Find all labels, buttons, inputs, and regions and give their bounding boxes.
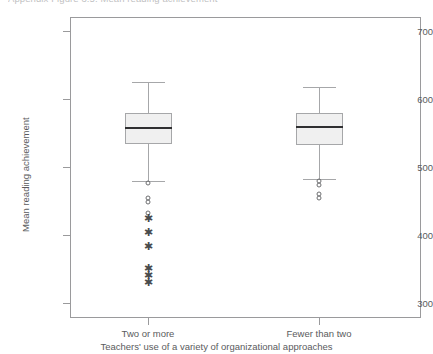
chart-root: Appendix Figure 3.5: Mean reading achiev… [0, 0, 433, 354]
y-tick-mark [63, 167, 70, 168]
y-tick-label: 400 [399, 230, 433, 241]
x-axis-label: Teachers' use of a variety of organizati… [0, 341, 433, 352]
outlier-circle-marker [146, 181, 151, 186]
whisker-upper-cap [132, 82, 165, 83]
y-tick-mark [63, 303, 70, 304]
y-tick-label: 700 [399, 26, 433, 37]
whisker-lower-line [319, 145, 320, 180]
y-tick-mark [63, 235, 70, 236]
outlier-star-marker: ✱ [144, 213, 153, 224]
y-tick-label: 300 [399, 298, 433, 309]
box-iqr [296, 113, 343, 144]
whisker-lower-line [148, 144, 149, 181]
x-tick-mark [319, 318, 320, 325]
y-tick-mark [63, 31, 70, 32]
plot-area [70, 17, 421, 318]
outlier-circle-marker [146, 199, 151, 204]
outlier-star-marker: ✱ [144, 228, 153, 239]
outlier-star-marker: ✱ [144, 277, 153, 288]
x-tick-label: Fewer than two [287, 328, 352, 339]
outlier-circle-marker [317, 183, 322, 188]
whisker-upper-line [319, 87, 320, 113]
whisker-upper-cap [303, 87, 336, 88]
whisker-upper-line [148, 82, 149, 113]
outlier-star-marker: ✱ [144, 241, 153, 252]
median-line [296, 126, 343, 128]
y-tick-label: 500 [399, 162, 433, 173]
y-tick-mark [63, 99, 70, 100]
x-tick-mark [148, 318, 149, 325]
x-tick-label: Two or more [122, 328, 175, 339]
clipped-caption-text: Appendix Figure 3.5: Mean reading achiev… [8, 0, 217, 4]
y-axis-label: Mean reading achievement [20, 117, 31, 232]
median-line [125, 127, 172, 129]
outlier-circle-marker [317, 195, 322, 200]
y-tick-label: 600 [399, 94, 433, 105]
